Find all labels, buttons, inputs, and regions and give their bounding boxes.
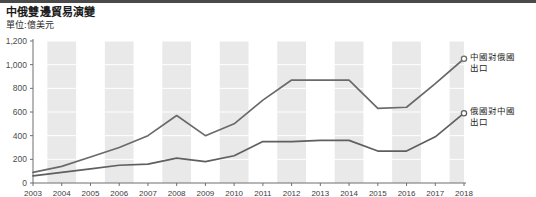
- chart-container: 中俄雙邊貿易演變 單位:億美元 02004006008001,0001,200 …: [0, 0, 536, 197]
- series-label-line2-1: 出口: [470, 117, 488, 127]
- y-axis: 02004006008001,0001,200: [6, 36, 33, 188]
- x-tick-label-2010: 2010: [225, 189, 243, 197]
- x-tick-label-2016: 2016: [398, 189, 416, 197]
- x-tick-label-2005: 2005: [82, 189, 100, 197]
- x-tick-label-2003: 2003: [24, 189, 42, 197]
- x-tick-label-2012: 2012: [283, 189, 301, 197]
- series-endpoint-marker-1: [461, 111, 466, 116]
- x-tick-label-2013: 2013: [311, 189, 329, 197]
- series-endpoint-marker-0: [461, 56, 466, 61]
- y-tick-label-0: 0: [22, 178, 27, 188]
- x-tick-label-2007: 2007: [139, 189, 157, 197]
- x-tick-label-2015: 2015: [369, 189, 387, 197]
- plot-area: 02004006008001,0001,200 2003200420052006…: [0, 33, 536, 197]
- x-tick-label-2009: 2009: [197, 189, 215, 197]
- chart-header: 中俄雙邊貿易演變 單位:億美元: [6, 6, 326, 31]
- x-tick-label-2011: 2011: [254, 189, 272, 197]
- y-tick-label-1200: 1,200: [6, 36, 28, 46]
- y-tick-label-1000: 1,000: [6, 60, 28, 70]
- x-tick-label-2008: 2008: [168, 189, 186, 197]
- x-tick-label-2018: 2018: [455, 189, 473, 197]
- y-tick-label-400: 400: [13, 131, 27, 141]
- y-tick-label-600: 600: [13, 107, 27, 117]
- line-chart-svg: 02004006008001,0001,200 2003200420052006…: [0, 33, 536, 197]
- x-axis: 2003200420052006200720082009201020112012…: [24, 183, 473, 197]
- series-labels: 中國對俄國出口俄國對中國出口: [470, 52, 515, 127]
- top-divider-rule: [0, 0, 536, 3]
- y-tick-label-800: 800: [13, 83, 27, 93]
- y-tick-label-200: 200: [13, 154, 27, 164]
- x-tick-label-2014: 2014: [340, 189, 358, 197]
- page-title: 中俄雙邊貿易演變: [6, 6, 326, 19]
- x-tick-label-2006: 2006: [110, 189, 128, 197]
- chart-unit-subtitle: 單位:億美元: [6, 20, 326, 31]
- series-label-line1-0: 中國對俄國: [470, 52, 515, 62]
- series-label-line1-1: 俄國對中國: [470, 106, 515, 116]
- series-label-line2-0: 出口: [470, 63, 488, 73]
- x-tick-label-2004: 2004: [53, 189, 71, 197]
- x-tick-label-2017: 2017: [426, 189, 444, 197]
